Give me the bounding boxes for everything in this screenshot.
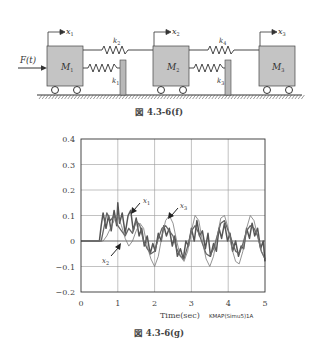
svg-text:k4: k4 xyxy=(219,37,226,46)
y-tick-label: 0.1 xyxy=(62,212,75,221)
caption-f: 図 4.3-6(f) xyxy=(135,107,183,117)
y-tick-label: −0.1 xyxy=(56,263,75,272)
svg-text:x3: x3 xyxy=(180,202,187,211)
credit-label: KMAP(Simu5)1A xyxy=(209,313,254,319)
svg-text:x2: x2 xyxy=(172,27,180,37)
force-arrow xyxy=(18,65,47,70)
annotation-x1: x1 xyxy=(131,197,150,214)
spring-k3 xyxy=(189,64,225,72)
ground-hatch xyxy=(39,95,304,99)
svg-text:k3: k3 xyxy=(217,77,224,86)
svg-text:x3: x3 xyxy=(278,27,286,37)
displacement-arrow-x3 xyxy=(260,30,277,47)
spring-k4 xyxy=(189,46,259,54)
chart-series xyxy=(81,203,265,267)
force-label: F(t) xyxy=(19,55,36,65)
y-tick-label: −0.2 xyxy=(56,288,75,297)
mass-spring-diagram: M1 M2 M3 x1 x2 x3 xyxy=(18,27,304,117)
x-tick-label: 1 xyxy=(115,299,120,308)
annotation-x2: x2 xyxy=(102,243,121,266)
x-tick-label: 2 xyxy=(152,299,157,308)
svg-text:x1: x1 xyxy=(66,27,74,37)
svg-text:x2: x2 xyxy=(102,257,109,266)
displacement-arrow-x1 xyxy=(48,30,65,47)
mass-3: M3 xyxy=(259,46,295,94)
svg-text:x1: x1 xyxy=(143,197,150,206)
y-tick-label: 0.3 xyxy=(62,161,75,170)
y-axis-ticks: 0.40.30.20.10−0.1−0.2 xyxy=(56,135,75,297)
svg-text:k1: k1 xyxy=(112,77,119,86)
x-axis-ticks: 012345 xyxy=(78,299,267,308)
y-tick-label: 0.4 xyxy=(62,135,75,144)
x-axis-label: Time(sec) xyxy=(160,311,200,320)
spring-k2 xyxy=(83,46,153,54)
y-tick-label: 0 xyxy=(70,237,75,246)
displacement-chart: 0.40.30.20.10−0.1−0.2 012345 x1 x3 x2 Ti… xyxy=(56,135,268,338)
spring-k1 xyxy=(83,64,120,72)
displacement-arrow-x2 xyxy=(154,30,171,47)
fixed-post-2 xyxy=(225,60,231,95)
y-tick-label: 0.2 xyxy=(62,186,75,195)
x-tick-label: 4 xyxy=(226,299,231,308)
mass-1: M1 xyxy=(47,46,83,94)
annotation-x3: x3 xyxy=(168,202,187,219)
x-tick-label: 3 xyxy=(189,299,194,308)
caption-g: 図 4.3-6(g) xyxy=(134,328,184,338)
fixed-post-1 xyxy=(120,60,126,95)
svg-text:k2: k2 xyxy=(113,37,120,46)
x-tick-label: 0 xyxy=(78,299,83,308)
mass-2: M2 xyxy=(153,46,189,94)
x-tick-label: 5 xyxy=(262,299,267,308)
